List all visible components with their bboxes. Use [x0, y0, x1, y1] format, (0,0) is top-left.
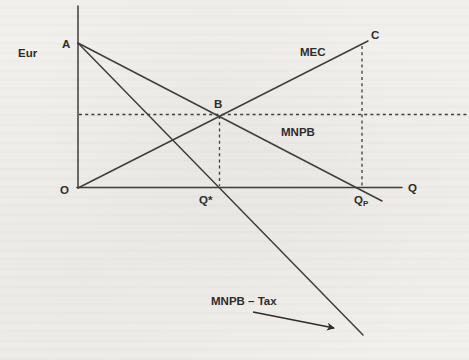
y-axis-label: Eur: [18, 47, 38, 59]
economics-pigouvian-tax-diagram: Eur Q O A B C Q* QP MEC MNPB MNPB – Tax: [0, 0, 469, 360]
q-star-tick-label: Q*: [199, 194, 213, 206]
qp-tick-base: Q: [354, 194, 363, 206]
mec-curve: [78, 41, 368, 188]
point-c-label: C: [371, 29, 379, 41]
mnpb-curve: [78, 43, 382, 201]
mnpb-tax-curve-label: MNPB – Tax: [211, 295, 277, 307]
x-axis-label: Q: [408, 182, 417, 194]
mnpb-tax-pointer-arrow: [253, 312, 334, 328]
origin-label: O: [60, 184, 69, 196]
dashed-guides: [79, 46, 467, 186]
scanned-textbook-page: Eur Q O A B C Q* QP MEC MNPB MNPB – Tax: [0, 0, 469, 360]
mnpb-tax-curve: [78, 43, 363, 335]
qp-tick-label: QP: [354, 194, 369, 208]
mnpb-curve-label: MNPB: [281, 126, 315, 138]
point-a-label: A: [62, 38, 70, 50]
mec-curve-label: MEC: [300, 46, 326, 58]
point-b-label: B: [214, 98, 222, 110]
axes: [77, 6, 402, 188]
qp-tick-subscript: P: [363, 199, 369, 208]
